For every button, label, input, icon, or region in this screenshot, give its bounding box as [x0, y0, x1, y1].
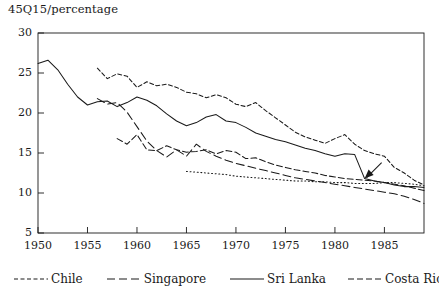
legend-item-singapore[interactable]: Singapore	[107, 272, 206, 286]
x-tick-label: 1960	[121, 239, 153, 252]
x-tick-label: 1950	[22, 239, 54, 252]
legend-line-swatch	[14, 274, 48, 284]
y-tick-label: 20	[4, 106, 32, 119]
y-tick-label: 5	[4, 226, 32, 239]
annotation-arrow-icon	[365, 163, 382, 179]
x-tick-label: 1985	[368, 239, 400, 252]
legend-line-swatch	[230, 274, 264, 284]
x-tick-label: 1970	[220, 239, 252, 252]
legend-item-chile[interactable]: Chile	[14, 272, 83, 286]
x-tick-label: 1975	[269, 239, 301, 252]
y-tick-label: 30	[4, 26, 32, 39]
plot-frame	[38, 33, 424, 233]
chart-container: 45Q15/percentage ChileSingaporeSri Lanka…	[0, 0, 439, 297]
chart-legend: ChileSingaporeSri LankaCosta RicaCuba	[0, 268, 439, 290]
y-tick-label: 15	[4, 146, 32, 159]
line-chart-plot	[0, 0, 439, 297]
axis-title: 45Q15/percentage	[8, 2, 118, 16]
series-line-singapore	[97, 99, 424, 204]
y-tick-label: 10	[4, 186, 32, 199]
x-tick-label: 1955	[71, 239, 103, 252]
legend-label: Sri Lanka	[267, 272, 326, 286]
legend-line-swatch	[348, 274, 382, 284]
legend-label: Costa Rica	[385, 272, 439, 286]
series-line-chile	[97, 68, 424, 185]
legend-label: Chile	[51, 272, 83, 286]
y-tick-label: 25	[4, 66, 32, 79]
legend-label: Singapore	[144, 272, 206, 286]
legend-item-costa-rica[interactable]: Costa Rica	[348, 272, 439, 286]
x-tick-label: 1965	[170, 239, 202, 252]
legend-item-sri-lanka[interactable]: Sri Lanka	[230, 272, 326, 286]
series-line-costa-rica	[117, 135, 424, 191]
x-tick-label: 1980	[319, 239, 351, 252]
series-line-sri-lanka	[38, 60, 424, 187]
legend-line-swatch	[107, 274, 141, 284]
